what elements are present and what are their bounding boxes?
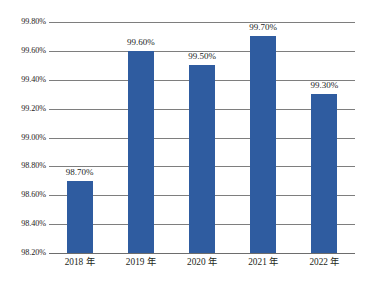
bar	[189, 65, 215, 253]
bar-value-label: 99.70%	[233, 23, 293, 32]
bar-value-label: 99.30%	[294, 81, 354, 90]
bar-chart: 99.80%99.60%99.40%99.20%99.00%98.80%98.6…	[0, 0, 372, 288]
bar	[128, 51, 154, 253]
y-axis-tick-label: 98.40%	[0, 220, 46, 228]
y-axis-tick-label: 98.80%	[0, 162, 46, 170]
x-axis-tick-label: 2022 年	[293, 257, 355, 268]
bar-value-label: 99.60%	[111, 38, 171, 47]
y-axis-tick-label: 98.60%	[0, 191, 46, 199]
y-axis-tick-label: 98.20%	[0, 249, 46, 257]
y-axis-tick-label: 99.20%	[0, 105, 46, 113]
y-axis-tick-label: 99.40%	[0, 76, 46, 84]
bar	[67, 181, 93, 253]
x-axis-tick-label: 2019 年	[110, 257, 172, 268]
gridline	[49, 253, 355, 254]
gridline	[49, 22, 355, 23]
x-axis-tick-label: 2018 年	[49, 257, 111, 268]
bar	[311, 94, 337, 253]
x-axis-tick-label: 2021 年	[232, 257, 294, 268]
bar	[250, 36, 276, 253]
x-axis-tick-label: 2020 年	[171, 257, 233, 268]
bar-value-label: 98.70%	[50, 168, 110, 177]
bar-value-label: 99.50%	[172, 52, 232, 61]
y-axis-tick-label: 99.00%	[0, 134, 46, 142]
y-axis-tick-label: 99.60%	[0, 47, 46, 55]
y-axis-tick-label: 99.80%	[0, 18, 46, 26]
